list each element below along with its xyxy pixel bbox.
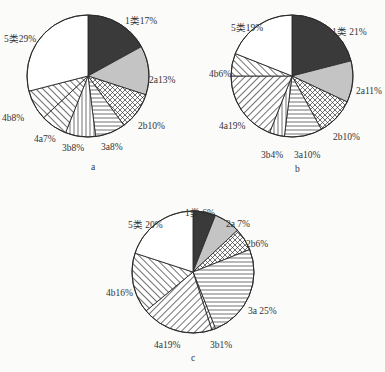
slice-label: 2a11%	[356, 86, 382, 96]
slice-label: 2a 7%	[226, 219, 250, 229]
chart-caption-a: a	[91, 162, 96, 172]
slice-label: 5类 20%	[128, 219, 163, 230]
slice-label: 1类17%	[125, 15, 157, 26]
slice-label: 5类19%	[231, 22, 263, 33]
slice-label: 3b1%	[210, 340, 232, 350]
slice-label: 4b16%	[106, 288, 133, 298]
slice-label: 4a7%	[34, 134, 56, 144]
pie-chart-a	[27, 15, 149, 137]
slice-label: 2b10%	[333, 132, 360, 142]
slice-label: 1类 21%	[332, 26, 367, 37]
slice-label: 2a13%	[149, 75, 175, 85]
slice-label: 3b8%	[62, 143, 84, 153]
slice-label: 3a 25%	[248, 306, 277, 316]
pie-charts-figure: 1类17%2a13%2b10%3a8%3b8%4a7%4b8%5类29%1类 2…	[0, 0, 385, 372]
slice-label: 4a19%	[219, 121, 245, 131]
slice-label: 4b6%	[209, 69, 231, 79]
slice-label: 2b6%	[246, 239, 268, 249]
slice-label: 3b4%	[261, 150, 283, 160]
slice-label: 4b8%	[2, 113, 24, 123]
slice-label: 2b10%	[138, 121, 165, 131]
slice-label: 1类 6%	[185, 207, 215, 218]
slice-label: 4a19%	[154, 340, 180, 350]
slice-label: 3a8%	[101, 142, 123, 152]
chart-caption-b: b	[295, 164, 300, 174]
slice-label: 3a10%	[294, 150, 320, 160]
slice-label: 5类29%	[4, 33, 36, 44]
pies-group	[27, 15, 353, 333]
chart-caption-c: c	[191, 353, 195, 363]
